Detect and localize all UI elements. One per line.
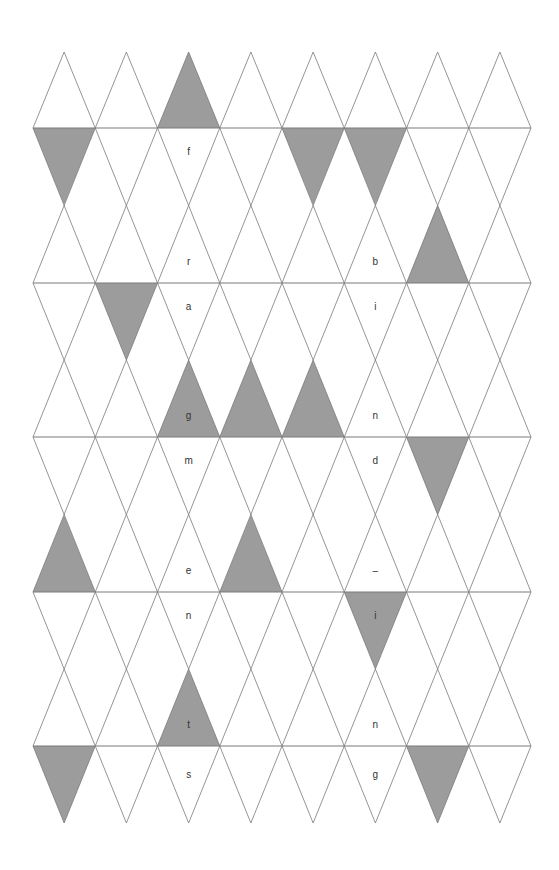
filled-triangle bbox=[220, 360, 282, 437]
diagonal-line bbox=[313, 52, 344, 128]
cell-letter: m bbox=[184, 455, 192, 466]
filled-triangle bbox=[220, 515, 282, 592]
triangle-grid: frbaignmde–nitnsg bbox=[0, 0, 559, 870]
cell-letter: g bbox=[373, 769, 379, 780]
cell-letter: – bbox=[373, 565, 379, 576]
filled-triangle bbox=[344, 592, 406, 669]
filled-triangle bbox=[95, 283, 157, 360]
filled-triangle bbox=[407, 746, 469, 823]
filled-triangle bbox=[407, 205, 469, 283]
diagonal-line bbox=[469, 52, 500, 128]
cell-letter: b bbox=[373, 256, 379, 267]
diagonal-line bbox=[313, 746, 344, 823]
filled-triangle bbox=[158, 52, 220, 128]
diagonal-line bbox=[375, 52, 406, 128]
cell-letter: i bbox=[374, 610, 376, 621]
filled-triangle bbox=[158, 669, 220, 746]
diagonal-line bbox=[500, 52, 531, 128]
diagonal-line bbox=[220, 52, 251, 128]
diagonal-line bbox=[344, 746, 375, 823]
cell-letter: f bbox=[187, 146, 190, 157]
diagonal-line bbox=[438, 52, 469, 128]
filled-triangle bbox=[344, 128, 406, 205]
grid-lines bbox=[33, 52, 531, 823]
diagonal-line bbox=[220, 746, 251, 823]
cell-letter: d bbox=[373, 455, 379, 466]
diagonal-line bbox=[126, 746, 157, 823]
filled-triangle bbox=[158, 360, 220, 437]
diagonal-line bbox=[251, 746, 282, 823]
diagonal-line bbox=[469, 746, 500, 823]
diagonal-line bbox=[64, 52, 95, 128]
cell-letter: s bbox=[186, 769, 191, 780]
cell-letter: t bbox=[187, 719, 190, 730]
filled-triangle bbox=[282, 128, 344, 205]
diagonal-line bbox=[95, 52, 126, 128]
diagonal-line bbox=[282, 746, 313, 823]
diagonal-line bbox=[375, 746, 406, 823]
diagonal-line bbox=[282, 52, 313, 128]
filled-triangle bbox=[33, 128, 95, 205]
cell-letter: n bbox=[186, 610, 192, 621]
filled-triangle bbox=[33, 746, 95, 823]
diagonal-line bbox=[344, 52, 375, 128]
cell-letter: e bbox=[186, 565, 192, 576]
cell-letter: a bbox=[186, 301, 192, 312]
cell-letter: i bbox=[374, 301, 376, 312]
filled-triangle bbox=[407, 437, 469, 515]
diagonal-line bbox=[251, 52, 282, 128]
diagonal-line bbox=[407, 52, 438, 128]
diagonal-line bbox=[33, 52, 64, 128]
filled-triangle bbox=[282, 360, 344, 437]
diagonal-line bbox=[189, 746, 220, 823]
cell-letter: n bbox=[373, 410, 379, 421]
diagonal-line bbox=[95, 746, 126, 823]
cell-letter: r bbox=[187, 256, 191, 267]
diagonal-line bbox=[500, 746, 531, 823]
cell-letters: frbaignmde–nitnsg bbox=[184, 146, 378, 780]
cell-letter: n bbox=[373, 719, 379, 730]
cell-letter: g bbox=[186, 410, 192, 421]
filled-triangle bbox=[33, 515, 95, 592]
diagonal-line bbox=[126, 52, 157, 128]
diagonal-line bbox=[158, 746, 189, 823]
